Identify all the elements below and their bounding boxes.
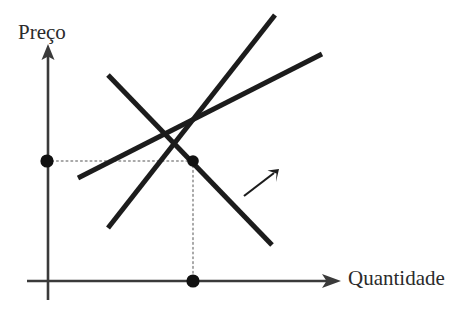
quantity-axis-point xyxy=(186,274,199,287)
shift-arrow-shaft xyxy=(244,173,274,196)
x-axis-label: Quantidade xyxy=(348,268,445,289)
guide-lines-group xyxy=(47,161,193,281)
y-axis-label: Preço xyxy=(18,22,66,43)
supply-curve-2 xyxy=(78,54,322,178)
axes-group xyxy=(27,44,341,300)
price-axis-point xyxy=(40,154,53,167)
shift-arrow xyxy=(244,169,279,196)
supply-demand-figure: Preço Quantidade xyxy=(0,0,467,319)
equilibrium-point xyxy=(187,155,199,167)
point-markers-group xyxy=(40,154,199,287)
curves-group xyxy=(78,15,322,245)
